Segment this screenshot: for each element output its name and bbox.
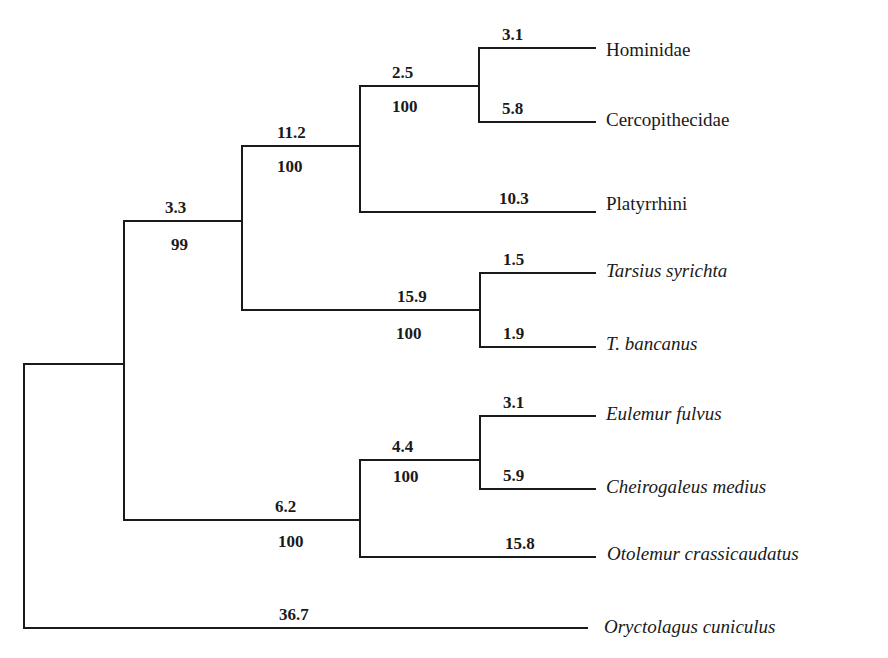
branch-t-bancanus (479, 346, 596, 348)
branch-oryctolagus (23, 627, 588, 629)
bootstrap-strepsirrhini: 100 (278, 533, 304, 550)
bootstrap-anthropoidea: 100 (277, 158, 303, 175)
length-tarsius-syrichta: 1.5 (503, 251, 524, 268)
branch-platyrrhini (359, 211, 596, 213)
branch-anthropoidea (241, 145, 360, 147)
branch-cercopithecidae (478, 121, 596, 123)
taxon-tarsius-syrichta: Tarsius syrichta (606, 261, 727, 280)
bootstrap-lemuriformes: 100 (393, 468, 419, 485)
length-platyrrhini: 10.3 (499, 190, 529, 207)
taxon-oryctolagus-cuniculus: Oryctolagus cuniculus (604, 617, 776, 636)
branch-hominidae (478, 47, 596, 49)
primates-vertical-branch (123, 220, 125, 520)
length-anthropoidea: 11.2 (277, 124, 306, 141)
length-strepsirrhini: 6.2 (275, 498, 296, 515)
root-to-primates-branch (23, 363, 124, 365)
taxon-hominidae: Hominidae (606, 40, 690, 59)
strepsirrhini-vertical-branch (359, 459, 361, 557)
bootstrap-haplorhini: 99 (171, 236, 188, 253)
length-tarsius: 15.9 (397, 288, 427, 305)
branch-eulemur-fulvus (479, 415, 596, 417)
length-lemuriformes: 4.4 (392, 438, 413, 455)
phylogenetic-tree: 3.1 5.8 10.3 1.5 1.9 3.1 5.9 15.8 36.7 2… (0, 0, 888, 658)
tarsius-vertical-branch (479, 272, 481, 348)
length-catarrhini: 2.5 (392, 64, 413, 81)
taxon-eulemur-fulvus: Eulemur fulvus (606, 404, 722, 423)
length-cercopithecidae: 5.8 (502, 100, 523, 117)
lemuriformes-vertical-branch (479, 415, 481, 490)
branch-otolemur (359, 556, 596, 558)
taxon-platyrrhini: Platyrrhini (606, 194, 687, 213)
length-eulemur-fulvus: 3.1 (503, 394, 524, 411)
length-otolemur-crassicaudatus: 15.8 (505, 535, 535, 552)
branch-cheirogaleus-medius (479, 488, 596, 490)
taxon-t-bancanus: T. bancanus (606, 334, 697, 353)
taxon-cercopithecidae: Cercopithecidae (606, 110, 729, 129)
taxon-cheirogaleus-medius: Cheirogaleus medius (606, 477, 766, 496)
catarrhini-vertical-branch (478, 47, 480, 122)
length-cheirogaleus-medius: 5.9 (503, 467, 524, 484)
root-vertical-branch (23, 363, 25, 628)
haplorhini-vertical-branch (241, 145, 243, 310)
anthropoidea-vertical-branch (359, 85, 361, 212)
length-haplorhini: 3.3 (165, 199, 186, 216)
branch-tarsius (241, 309, 481, 311)
branch-strepsirrhini (123, 519, 360, 521)
bootstrap-catarrhini: 100 (392, 98, 418, 115)
branch-haplorhini (123, 220, 242, 222)
length-hominidae: 3.1 (502, 26, 523, 43)
taxon-otolemur-crassicaudatus: Otolemur crassicaudatus (607, 544, 799, 563)
branch-lemuriformes (359, 459, 481, 461)
length-oryctolagus-cuniculus: 36.7 (279, 606, 309, 623)
bootstrap-tarsius: 100 (396, 325, 422, 342)
length-t-bancanus: 1.9 (503, 325, 524, 342)
branch-catarrhini (359, 85, 480, 87)
branch-tarsius-syrichta (479, 272, 596, 274)
